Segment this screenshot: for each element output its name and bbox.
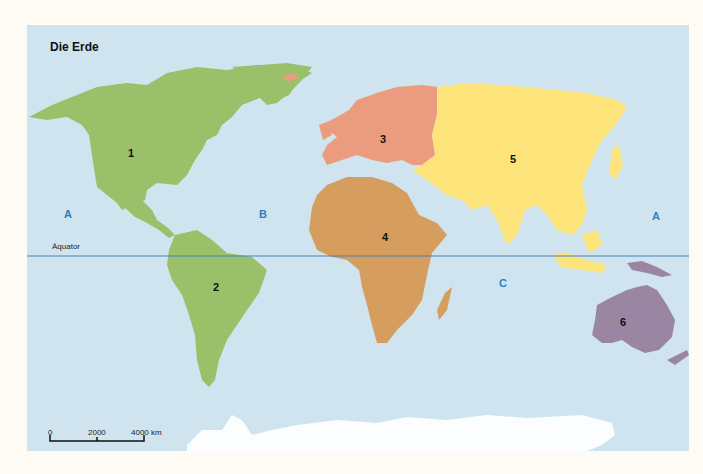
ocean-label-a-west: A (64, 208, 72, 220)
madagascar (437, 287, 452, 320)
continent-label-4: 4 (382, 231, 388, 243)
continents-svg (27, 25, 689, 451)
continent-asia (412, 83, 627, 245)
ocean-label-a-east: A (652, 210, 660, 222)
continent-australia (592, 285, 675, 353)
antarctica (187, 415, 615, 451)
new-zealand (667, 350, 689, 365)
continent-south-america (167, 230, 267, 387)
borneo (582, 230, 602, 253)
new-guinea (627, 261, 672, 277)
world-map: Die Erde Äquator 1 2 3 4 5 6 A B C A 0 2… (27, 25, 689, 451)
continent-africa (309, 177, 447, 343)
equator-label: Äquator (52, 242, 80, 251)
central-america (122, 200, 175, 238)
continent-label-5: 5 (510, 153, 516, 165)
continent-label-2: 2 (213, 281, 219, 293)
continent-europe (322, 85, 437, 165)
map-title: Die Erde (50, 40, 99, 54)
scale-label-2000: 2000 (88, 428, 106, 437)
continent-label-1: 1 (128, 147, 134, 159)
ocean-label-c: C (499, 277, 507, 289)
continent-label-6: 6 (620, 316, 626, 328)
ocean-label-b: B (259, 208, 267, 220)
scale-label-0: 0 (48, 428, 52, 437)
scale-label-4000: 4000 km (131, 428, 162, 437)
japan (609, 145, 623, 180)
continent-label-3: 3 (380, 133, 386, 145)
